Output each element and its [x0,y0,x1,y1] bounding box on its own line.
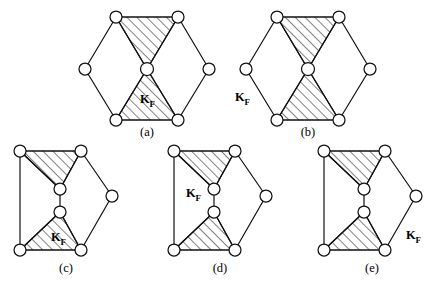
panel-a-edge-upper-right [178,17,209,69]
panel-a-node [172,114,184,126]
panel-a-hatch-upper [116,17,178,69]
panel-b-node [240,63,252,75]
panel-c-node-inner-upper [54,183,66,195]
panel-a-node [172,11,184,23]
panel-e-node [379,244,391,256]
panel-c-node [75,244,87,256]
panel-d-caption: (d) [213,261,228,275]
panel-e-edge-upper-right [385,151,416,196]
panel-a-edge-lower-left [85,69,116,120]
panel-b-node [333,114,345,126]
panel-e-kf-subscript: F [416,235,422,245]
panel-d-node [260,190,272,202]
panel-a-node [203,63,215,75]
panel-d-kf-main: K [186,186,196,200]
panel-d: K F (d) [168,145,272,275]
panel-d-kf-label: K F [186,186,202,203]
panel-e-node [410,190,422,202]
panel-b-node [333,11,345,23]
panel-e-kf-main: K [406,228,416,242]
figure-container: K F (a) K F (b) [0,0,443,289]
panel-e-hatch-upper [324,151,385,189]
panel-a-kf-subscript: F [150,99,156,109]
panel-a-kf-main: K [140,92,150,106]
panel-d-node [168,145,180,157]
panel-b-node [271,114,283,126]
panel-e-node [379,145,391,157]
panel-c-hatch-upper [20,151,81,189]
panel-d-node-inner-upper [208,183,220,195]
panel-c-kf-main: K [51,230,61,244]
panel-c-kf-subscript: F [61,237,67,247]
panel-c-edge-lower-right [81,196,112,250]
figure-svg: K F (a) K F (b) [0,0,443,289]
panel-a-node-center [141,63,154,76]
panel-b-hatch-lower [277,69,339,120]
panel-b-node-center [302,63,315,76]
panel-b-node [364,63,376,75]
panel-a-node [110,11,122,23]
panel-d-kf-subscript: F [196,193,202,203]
panel-e-kf-label: K F [406,228,422,245]
panel-b-kf-subscript: F [245,97,251,107]
panel-a-node [79,63,91,75]
panel-b-hatch-upper [277,17,339,69]
panel-e-node-inner-upper [358,183,370,195]
panel-d-hatch-upper [174,151,235,189]
panel-a-edge-lower-right [178,69,209,120]
panel-b-kf-label: K F [235,90,251,107]
panel-c-node [14,145,26,157]
panel-d-edge-lower-right [235,196,266,250]
panel-b-kf-main: K [235,90,245,104]
panel-e: K F (e) [318,145,422,275]
panel-c-caption: (c) [59,261,73,275]
panel-a-caption: (a) [140,125,154,139]
panel-c-node [106,190,118,202]
panel-b-edge-lower-left [246,69,277,120]
panel-c-node [75,145,87,157]
panel-e-caption: (e) [365,261,379,275]
panel-d-node [229,244,241,256]
panel-c: K F (c) [14,145,118,275]
panel-a: K F (a) [79,11,215,139]
panel-d-node-inner-lower [208,206,220,218]
panel-b-edge-upper-left [246,17,277,69]
panel-d-node [229,145,241,157]
panel-b-caption: (b) [301,125,316,139]
panel-b-edge-lower-right [339,69,370,120]
panel-e-node-inner-lower [358,206,370,218]
panel-a-node [110,114,122,126]
panel-b-edge-upper-right [339,17,370,69]
panel-c-edge-upper-right [81,151,112,196]
panel-c-node-inner-lower [54,206,66,218]
panel-c-node [14,244,26,256]
panel-d-hatch-lower [174,212,235,250]
panel-d-edge-upper-right [235,151,266,196]
panel-a-edge-upper-left [85,17,116,69]
panel-e-hatch-lower [324,212,385,250]
panel-e-node [318,145,330,157]
panel-e-node [318,244,330,256]
panel-d-node [168,244,180,256]
panel-b-node [271,11,283,23]
panel-b: K F (b) [235,11,376,139]
